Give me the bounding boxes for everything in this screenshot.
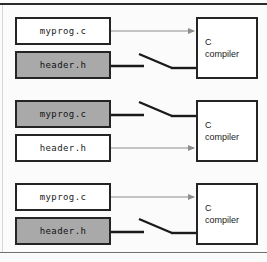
group-1-compiler-line1: C [205, 36, 256, 48]
group-1-compiler-box[interactable]: C compiler [196, 17, 258, 79]
group-3-compiler-box[interactable]: C compiler [196, 183, 258, 245]
group-1-switch-arm [139, 54, 172, 68]
group-3-header-label: header.h [40, 226, 87, 236]
group-3-myprog-box[interactable]: myprog.c [15, 183, 111, 211]
group-1-header-label: header.h [40, 60, 87, 70]
group-2-compiler-line1: C [205, 119, 256, 131]
group-3-switch-arm [139, 219, 172, 233]
group-1-myprog-label: myprog.c [40, 26, 87, 36]
group-1-compiler-line2: compiler [205, 48, 256, 60]
group-2-myprog-label: myprog.c [40, 109, 87, 119]
bottom-divider-rule [0, 252, 267, 253]
top-divider-rule [0, 3, 267, 5]
group-1-header-box[interactable]: header.h [15, 51, 111, 79]
group-2-compiler-line2: compiler [205, 131, 256, 143]
group-1-myprog-box[interactable]: myprog.c [15, 17, 111, 45]
group-3-compiler-line1: C [205, 202, 256, 214]
group-2-header-box[interactable]: header.h [15, 134, 111, 162]
group-2-compiler-box[interactable]: C compiler [196, 100, 258, 162]
group-2-header-label: header.h [40, 143, 87, 153]
left-edge-line [2, 5, 3, 252]
group-2-myprog-box[interactable]: myprog.c [15, 100, 111, 128]
group-2-switch-arm [139, 102, 172, 116]
group-3-compiler-line2: compiler [205, 214, 256, 226]
group-3-header-box[interactable]: header.h [15, 217, 111, 245]
group-3-myprog-label: myprog.c [40, 192, 87, 202]
compilation-diagram-figure: myprog.c header.h C compiler myprog.c he… [0, 0, 267, 262]
